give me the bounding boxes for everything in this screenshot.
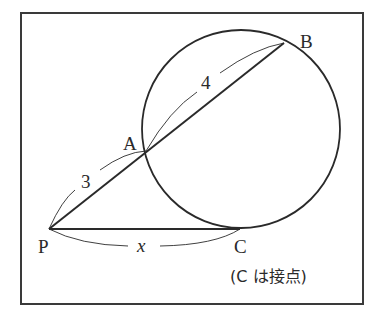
measure-arc-PC-right xyxy=(160,229,240,246)
measure-label-PC: x xyxy=(136,235,146,256)
point-label-C: C xyxy=(234,236,247,257)
measure-label-PA: 3 xyxy=(81,171,91,192)
figure-frame xyxy=(21,13,363,304)
point-label-P: P xyxy=(38,236,49,257)
point-label-B: B xyxy=(300,31,313,52)
secant-line-PB xyxy=(49,43,284,229)
measure-label-AB: 4 xyxy=(201,72,211,93)
measure-arc-PC-left xyxy=(49,229,128,246)
measure-arc-AB-lower xyxy=(146,92,197,151)
geometry-figure: P A B C 3 4 x (C は接点) xyxy=(0,0,378,318)
point-label-A: A xyxy=(123,133,137,154)
measure-arc-PA-lower xyxy=(49,190,75,229)
tangent-point-note: (C は接点) xyxy=(230,267,307,286)
